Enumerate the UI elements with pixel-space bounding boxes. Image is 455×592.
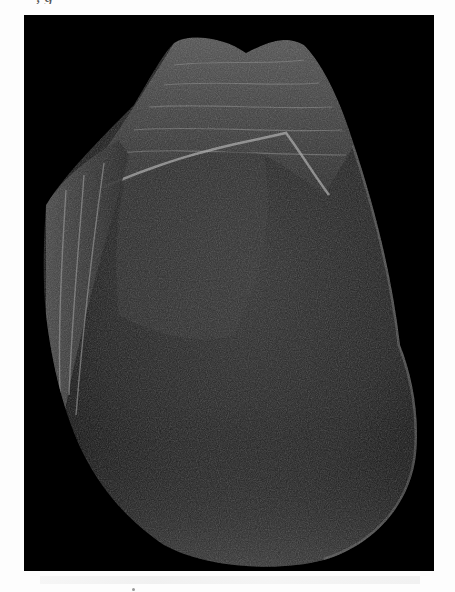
stone-artifact-illustration <box>24 15 434 571</box>
page-speck <box>132 588 135 591</box>
reverse-page-bleed-through <box>40 576 420 584</box>
cropped-caption-text: , g <box>36 0 436 4</box>
artifact-photo <box>24 15 434 571</box>
